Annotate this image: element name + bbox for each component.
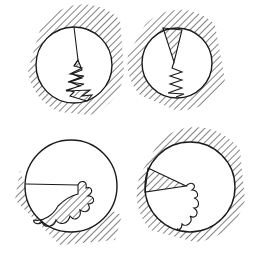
panel-bottom-left [15, 140, 122, 245]
figure-canvas [0, 0, 253, 254]
panel-top-right [127, 10, 225, 110]
panel-top-left [28, 4, 124, 115]
hatched-ring [28, 4, 124, 115]
horizontal-line [26, 184, 78, 185]
circle-outline [25, 140, 117, 232]
wavy-lobes [34, 182, 94, 227]
panel-bottom-right [137, 127, 245, 242]
